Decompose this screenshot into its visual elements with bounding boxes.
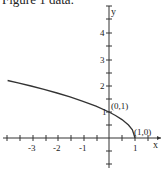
- x-tick-label: -3: [28, 143, 36, 153]
- y-axis-label: y: [111, 6, 116, 17]
- point-annotation: (1,0): [134, 127, 151, 137]
- y-tick-label: 2: [100, 81, 105, 91]
- x-tick-label: -2: [53, 143, 61, 153]
- x-tick-label: 1: [133, 143, 138, 153]
- x-tick-label: -1: [79, 143, 87, 153]
- x-axis-label: x: [153, 139, 158, 150]
- y-axis: [106, 6, 112, 168]
- point-annotation: (0,1): [111, 101, 128, 111]
- y-tick-label: 3: [100, 55, 105, 65]
- function-graph: -3 -2 -1 1 4 3 2 1 x y (0,1) (1,0): [0, 0, 164, 170]
- y-tick-label: 4: [100, 28, 105, 38]
- y-tick-label: 1: [102, 107, 107, 117]
